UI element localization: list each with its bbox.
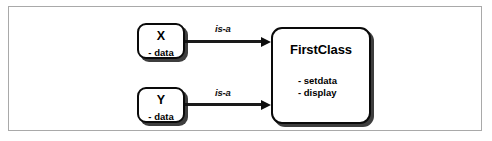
class-box-firstclass-title: FirstClass xyxy=(273,43,369,56)
class-box-x-members: - data xyxy=(139,47,183,59)
class-box-y-member: - data xyxy=(139,111,183,123)
class-box-firstclass[interactable]: FirstClass - setdata - display xyxy=(271,27,371,124)
diagram-canvas: X - data Y - data FirstClass - setdata -… xyxy=(0,0,492,141)
class-box-firstclass-member-setdata: - setdata xyxy=(298,75,369,87)
class-box-x-member: - data xyxy=(139,47,183,59)
arrow-shaft-icon xyxy=(183,103,261,106)
arrow-label-is-a-y: is-a xyxy=(215,87,231,98)
class-box-y-members: - data xyxy=(139,111,183,123)
arrow-shaft-icon xyxy=(183,40,261,43)
class-box-firstclass-members: - setdata - display xyxy=(273,75,369,99)
class-box-y-title: Y xyxy=(139,94,183,107)
class-box-x[interactable]: X - data xyxy=(137,23,185,59)
arrow-label-is-a-x: is-a xyxy=(215,23,231,34)
arrowhead-icon xyxy=(261,37,271,47)
class-box-firstclass-member-display: - display xyxy=(298,87,369,99)
arrowhead-icon xyxy=(261,100,271,110)
diagram-frame: X - data Y - data FirstClass - setdata -… xyxy=(8,6,482,131)
class-box-x-title: X xyxy=(139,30,183,43)
class-box-y[interactable]: Y - data xyxy=(137,87,185,123)
